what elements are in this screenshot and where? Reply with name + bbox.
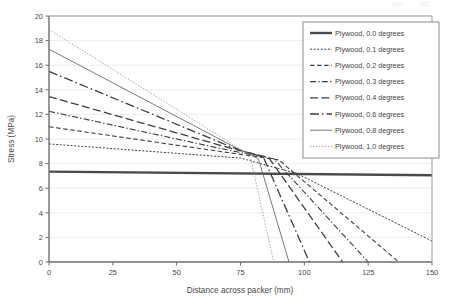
legend: Plywood, 0.0 degreesPlywood, 0.1 degrees… <box>303 22 439 158</box>
legend-label-4: Plywood, 0.4 degrees <box>335 93 405 102</box>
legend-label-5: Plywood, 0.6 degrees <box>335 110 405 119</box>
x-tick-label: 100 <box>298 268 311 277</box>
legend-label-2: Plywood, 0.2 degrees <box>335 61 405 70</box>
x-tick-label: 0 <box>47 268 51 277</box>
x-tick-label: 50 <box>172 268 180 277</box>
y-axis-title: Stress (MPa) <box>7 115 16 163</box>
y-tick-label: 4 <box>39 209 43 218</box>
y-tick-label: 2 <box>39 233 43 242</box>
y-tick-label: 8 <box>39 159 43 168</box>
y-tick-label: 12 <box>35 110 43 119</box>
chart-figure: 0255075100125150 02468101214161820 Dista… <box>0 0 451 304</box>
y-tick-label: 6 <box>39 184 43 193</box>
stress-distance-line-chart: 0255075100125150 02468101214161820 Dista… <box>0 0 451 304</box>
legend-label-7: Plywood, 1.0 degrees <box>335 142 405 151</box>
y-tick-label: 16 <box>35 61 43 70</box>
x-tick-label: 25 <box>109 268 117 277</box>
legend-label-1: Plywood, 0.1 degrees <box>335 45 405 54</box>
legend-label-3: Plywood, 0.3 degrees <box>335 77 405 86</box>
y-tick-label: 14 <box>35 86 43 95</box>
y-tick-label: 18 <box>35 36 43 45</box>
legend-label-6: Plywood, 0.8 degrees <box>335 126 405 135</box>
x-tick-label: 75 <box>236 268 244 277</box>
legend-label-0: Plywood, 0.0 degrees <box>335 29 405 38</box>
x-tick-label: 125 <box>362 268 375 277</box>
y-tick-label: 20 <box>35 12 43 21</box>
x-tick-label: 150 <box>426 268 439 277</box>
y-tick-label: 0 <box>39 258 43 267</box>
x-axis-title: Distance across packer (mm) <box>187 286 294 295</box>
y-tick-label: 10 <box>35 135 43 144</box>
